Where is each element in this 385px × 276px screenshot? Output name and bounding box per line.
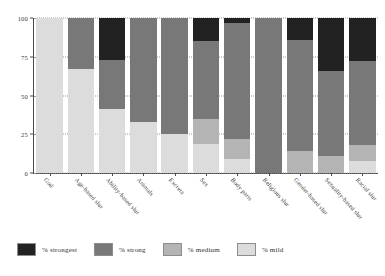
bar-group: [34, 18, 378, 173]
bar-segment: [99, 18, 125, 60]
bar-segment: [349, 161, 375, 173]
y-tick-mark: [30, 18, 33, 19]
legend-swatch: [163, 243, 182, 256]
bar-segment: [318, 156, 344, 173]
bar-column[interactable]: [193, 18, 219, 173]
legend-swatch: [17, 243, 36, 256]
x-axis-label: Racial slur: [355, 176, 379, 202]
bar-column[interactable]: [318, 18, 344, 173]
bar-segment: [287, 40, 313, 152]
legend-label: % medium: [188, 246, 220, 254]
bar-segment: [349, 145, 375, 161]
legend-swatch: [237, 243, 256, 256]
bar-segment: [130, 18, 156, 122]
bar-segment: [349, 61, 375, 145]
bar-segment: [193, 41, 219, 119]
y-tick-mark: [30, 173, 33, 174]
bar-segment: [36, 18, 62, 173]
x-axis-label: Animals: [136, 176, 156, 197]
x-axis-label: Excreta: [168, 176, 187, 196]
legend-label: % strong: [119, 246, 146, 254]
bar-column[interactable]: [68, 18, 94, 173]
bar-segment: [318, 71, 344, 156]
bar-segment: [161, 134, 187, 173]
bar-column[interactable]: [99, 18, 125, 173]
legend-label: % strongest: [42, 246, 77, 254]
y-tick-label: 50: [21, 92, 28, 99]
bar-segment: [255, 18, 281, 173]
bar-segment: [193, 18, 219, 41]
bar-segment: [287, 151, 313, 173]
bar-segment: [161, 18, 187, 134]
bar-segment: [349, 18, 375, 61]
bar-segment: [193, 144, 219, 173]
plot-area: 0255075100: [34, 18, 378, 173]
legend-item[interactable]: % strongest: [17, 243, 77, 256]
x-axis-label: Sex: [199, 176, 211, 188]
legend-item[interactable]: % mild: [237, 243, 284, 256]
x-axis-label: God: [42, 176, 55, 189]
bar-column[interactable]: [349, 18, 375, 173]
bar-segment: [68, 69, 94, 173]
x-axis-label: Age-based slur: [74, 176, 106, 210]
bar-segment: [99, 60, 125, 110]
chart-legend: % strongest% strong% medium% mild: [17, 243, 301, 256]
x-axis-labels: GodAge-based slurAbility-based slurAnima…: [34, 176, 378, 232]
x-axis-label: Religious slur: [261, 176, 291, 208]
legend-swatch: [94, 243, 113, 256]
bar-column[interactable]: [224, 18, 250, 173]
legend-item[interactable]: % medium: [163, 243, 220, 256]
bar-column[interactable]: [36, 18, 62, 173]
bar-segment: [224, 23, 250, 139]
y-tick-label: 0: [25, 170, 28, 177]
bar-segment: [287, 18, 313, 40]
y-tick-mark: [30, 95, 33, 96]
y-tick-label: 25: [21, 131, 28, 138]
x-axis-label: Body parts: [230, 176, 254, 202]
stacked-bar-chart: 0255075100 GodAge-based slurAbility-base…: [0, 0, 385, 276]
y-tick-mark: [30, 56, 33, 57]
bar-segment: [68, 18, 94, 69]
bar-segment: [318, 18, 344, 71]
bar-column[interactable]: [130, 18, 156, 173]
legend-item[interactable]: % strong: [94, 243, 146, 256]
bar-column[interactable]: [255, 18, 281, 173]
y-tick-label: 75: [21, 53, 28, 60]
bar-column[interactable]: [161, 18, 187, 173]
bar-segment: [224, 159, 250, 173]
legend-label: % mild: [262, 246, 284, 254]
y-tick-label: 100: [18, 15, 28, 22]
bar-segment: [224, 139, 250, 159]
bar-column[interactable]: [287, 18, 313, 173]
bar-segment: [193, 119, 219, 144]
bar-segment: [99, 109, 125, 173]
bar-segment: [130, 122, 156, 173]
y-tick-mark: [30, 134, 33, 135]
